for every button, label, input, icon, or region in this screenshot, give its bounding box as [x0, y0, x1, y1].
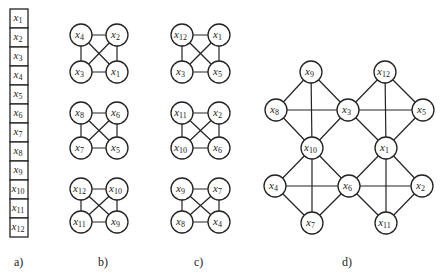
node-x3: x3: [171, 61, 193, 83]
node-x1: x1: [106, 61, 128, 83]
node-x4: x4: [70, 24, 92, 46]
node-x10: x10: [106, 178, 128, 200]
array-cell-x6: x6: [10, 104, 28, 123]
node-x8: x8: [171, 211, 193, 233]
node-x9: x9: [106, 211, 128, 233]
panel-c-label: c): [194, 255, 203, 269]
k4-group: x8x6x7x5: [70, 102, 128, 159]
node-x2: x2: [106, 24, 128, 46]
node-x1: x1: [208, 24, 230, 46]
array-cell-x4: x4: [10, 66, 28, 85]
node-x11: x11: [171, 102, 193, 124]
node-x6: x6: [338, 175, 360, 197]
node-x9: x9: [171, 178, 193, 200]
node-x5: x5: [208, 61, 230, 83]
node-x12: x12: [70, 178, 92, 200]
array-cell-x5: x5: [10, 85, 28, 104]
k4-group: x11x2x10x6: [171, 102, 230, 159]
graph-nodes: x9x12x8x3x5x10x1x4x6x2x7x11: [264, 61, 434, 234]
node-x2: x2: [411, 175, 433, 197]
node-x9: x9: [300, 61, 322, 83]
node-x6: x6: [106, 102, 128, 124]
panel-a-label: a): [14, 255, 23, 269]
node-x8: x8: [70, 102, 92, 124]
panel-b-groups: x4x2x3x1x8x6x7x5x12x10x11x9: [70, 24, 128, 233]
k4-group: x12x1x3x5: [171, 24, 230, 83]
node-x4: x4: [264, 175, 286, 197]
panel-labels: a) b) c) d): [14, 255, 352, 269]
node-x10: x10: [171, 137, 193, 159]
node-x4: x4: [208, 211, 230, 233]
graph-edges: [275, 72, 423, 223]
node-x12: x12: [374, 61, 396, 83]
array-cell-x3: x3: [10, 47, 28, 66]
panel-a-array: x1x2x3x4x5x6x7x8x9x10x11x12: [10, 9, 28, 237]
node-x6: x6: [208, 137, 230, 159]
panel-d-label: d): [342, 255, 352, 269]
k4-group: x12x10x11x9: [70, 178, 128, 233]
panel-d-graph: x9x12x8x3x5x10x1x4x6x2x7x11: [264, 61, 434, 234]
node-x3: x3: [337, 99, 359, 121]
k4-group: x4x2x3x1: [70, 24, 128, 83]
array-cell-x11: x11: [10, 199, 28, 218]
array-cell-x8: x8: [10, 142, 28, 161]
k4-group: x9x7x8x4: [171, 178, 230, 233]
node-x7: x7: [70, 137, 92, 159]
node-x7: x7: [208, 178, 230, 200]
array-cell-x12: x12: [10, 218, 28, 237]
array-cell-x9: x9: [10, 161, 28, 180]
panel-c-groups: x12x1x3x5x11x2x10x6x9x7x8x4: [171, 24, 230, 233]
array-cell-x1: x1: [10, 9, 28, 28]
array-cell-x2: x2: [10, 28, 28, 47]
node-x8: x8: [265, 99, 287, 121]
node-x12: x12: [171, 24, 193, 46]
array-cell-x10: x10: [10, 180, 28, 199]
node-x5: x5: [412, 99, 434, 121]
node-x11: x11: [70, 211, 92, 233]
node-x1: x1: [375, 137, 397, 159]
array-cell-x7: x7: [10, 123, 28, 142]
node-x3: x3: [70, 61, 92, 83]
panel-b-label: b): [98, 255, 108, 269]
diagram-canvas: x1x2x3x4x5x6x7x8x9x10x11x12 x4x2x3x1x8x6…: [0, 0, 444, 279]
node-x10: x10: [301, 137, 323, 159]
node-x11: x11: [375, 212, 397, 234]
node-x7: x7: [301, 212, 323, 234]
node-x2: x2: [208, 102, 230, 124]
node-x5: x5: [106, 137, 128, 159]
